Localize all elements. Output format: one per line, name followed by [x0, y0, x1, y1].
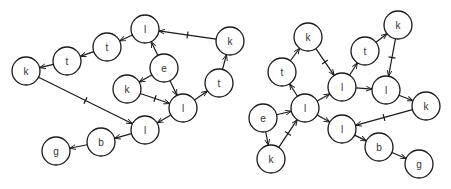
node-label: t [66, 56, 69, 67]
node-label: e [260, 113, 266, 124]
tick-mark [285, 132, 291, 136]
edge-R1-R6 [316, 49, 334, 76]
arrow-line [157, 115, 171, 123]
arrow-line [317, 94, 330, 101]
edge-L8-L9 [115, 134, 132, 139]
arrow-line [399, 95, 413, 101]
edge-R6-R9 [356, 88, 372, 89]
node-t[interactable]: t [53, 47, 81, 75]
edge-L5-L7 [170, 81, 177, 96]
node-label: t [364, 46, 367, 57]
node-k[interactable]: k [384, 11, 412, 39]
arrow-line [70, 145, 88, 149]
arrow-line [317, 115, 330, 122]
arrow-line [266, 132, 269, 146]
edge-L5-L1 [151, 42, 158, 56]
nodes: ktlekltklklbg [249, 11, 440, 178]
edge-R6-R7 [350, 63, 358, 75]
node-g[interactable]: g [405, 150, 433, 178]
node-l[interactable]: l [131, 15, 159, 43]
edge-R2-R1 [290, 48, 299, 61]
node-label: l [144, 24, 146, 35]
node-label: l [341, 124, 343, 135]
node-t[interactable]: t [93, 33, 121, 61]
arrow-line [356, 88, 372, 89]
left-graph: lttkekllbgkt [12, 15, 244, 165]
node-label: t [281, 67, 284, 78]
arrow-line [223, 55, 227, 70]
node-l[interactable]: l [169, 94, 197, 122]
edge-L1-L2 [120, 35, 133, 41]
edge-R5-R3 [279, 120, 297, 148]
arrow-line [139, 75, 152, 82]
node-label: b [98, 137, 104, 148]
node-label: g [416, 159, 422, 170]
node-k[interactable]: k [257, 145, 285, 173]
node-label: l [144, 125, 146, 136]
node-b[interactable]: b [87, 128, 115, 156]
edge-R3-R11 [317, 115, 330, 122]
node-k[interactable]: k [294, 23, 322, 51]
arrow-line [376, 34, 387, 43]
arrow-line [115, 134, 132, 139]
node-t[interactable]: t [351, 37, 379, 65]
node-label: l [182, 103, 184, 114]
arrow-line [350, 63, 358, 75]
edge-L7-L8 [157, 115, 171, 123]
node-k[interactable]: k [412, 92, 440, 120]
node-l[interactable]: l [372, 76, 400, 104]
node-label: e [161, 63, 167, 74]
edge-R3-R2 [290, 84, 298, 96]
node-l[interactable]: l [328, 73, 356, 101]
graphs-layer: lttkekllbgktktlekltklklbg [12, 11, 440, 178]
node-l[interactable]: l [291, 94, 319, 122]
node-l[interactable]: l [328, 115, 356, 143]
edge-L5-L6 [139, 75, 152, 82]
node-k[interactable]: k [12, 57, 40, 85]
arrow-line [170, 81, 177, 96]
edge-R8-R9 [389, 39, 396, 76]
node-t[interactable]: t [205, 69, 233, 97]
arrow-line [120, 35, 133, 41]
node-label: t [218, 78, 221, 89]
edge-L11-L1 [159, 31, 216, 39]
edge-R11-R12 [355, 135, 367, 141]
arrow-line [277, 111, 292, 115]
diagram-canvas: lttkekllbgktktlekltklklbg [0, 0, 451, 189]
edge-L7-L12 [194, 91, 207, 100]
arrow-line [355, 135, 367, 141]
edge-L3-L4 [40, 64, 54, 67]
edge-R10-R11 [356, 110, 413, 126]
arrow-line [392, 152, 406, 158]
edge-R4-R5 [266, 132, 269, 146]
edge-R4-R3 [277, 111, 292, 115]
edge-L12-L11 [223, 55, 227, 70]
node-l[interactable]: l [131, 116, 159, 144]
edge-L6-L7 [140, 93, 169, 103]
arrow-line [290, 84, 298, 96]
edge-L2-L3 [80, 52, 94, 57]
node-label: t [106, 42, 109, 53]
node-b[interactable]: b [365, 133, 393, 161]
arrow-line [151, 42, 158, 56]
right-graph: ktlekltklklbg [249, 11, 440, 178]
node-e[interactable]: e [150, 54, 178, 82]
node-label: l [341, 82, 343, 93]
arrow-line [40, 64, 54, 67]
node-g[interactable]: g [42, 137, 70, 165]
node-e[interactable]: e [249, 104, 277, 132]
node-label: g [53, 146, 59, 157]
edge-R9-R10 [399, 95, 413, 101]
node-label: l [385, 85, 387, 96]
edge-L9-L10 [70, 145, 88, 149]
edge-R3-R6 [317, 94, 330, 101]
node-t[interactable]: t [268, 58, 296, 86]
node-label: b [376, 142, 382, 153]
tick-mark [322, 60, 328, 64]
node-k[interactable]: k [113, 75, 141, 103]
arrow-line [194, 91, 207, 100]
tick-mark [187, 32, 188, 39]
tick-mark [389, 57, 396, 58]
node-k[interactable]: k [216, 27, 244, 55]
edge-R7-R8 [376, 34, 387, 43]
